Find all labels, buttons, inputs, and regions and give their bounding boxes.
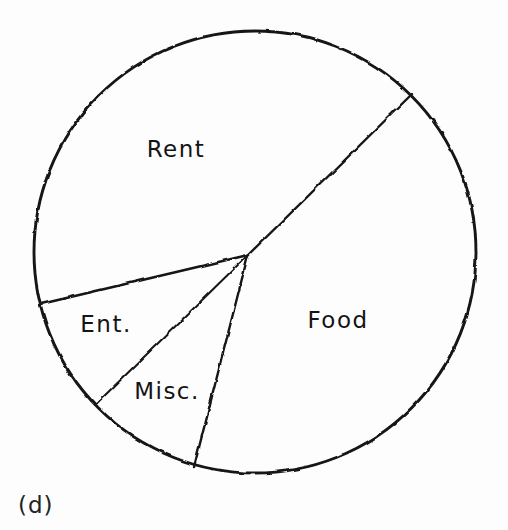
divider-rent-food (248, 94, 412, 255)
slice-label-rent: Rent (147, 136, 206, 162)
figure-caption: (d) (18, 492, 54, 518)
pie-chart-graphic (0, 0, 508, 530)
divider-rent-ent (41, 255, 248, 304)
divider-misc-food (194, 255, 248, 467)
slice-label-food: Food (307, 307, 368, 333)
pie-chart-figure: Rent Food Ent. Misc. (d) (0, 0, 508, 530)
slice-label-ent: Ent. (80, 311, 131, 337)
slice-label-misc: Misc. (134, 378, 200, 404)
